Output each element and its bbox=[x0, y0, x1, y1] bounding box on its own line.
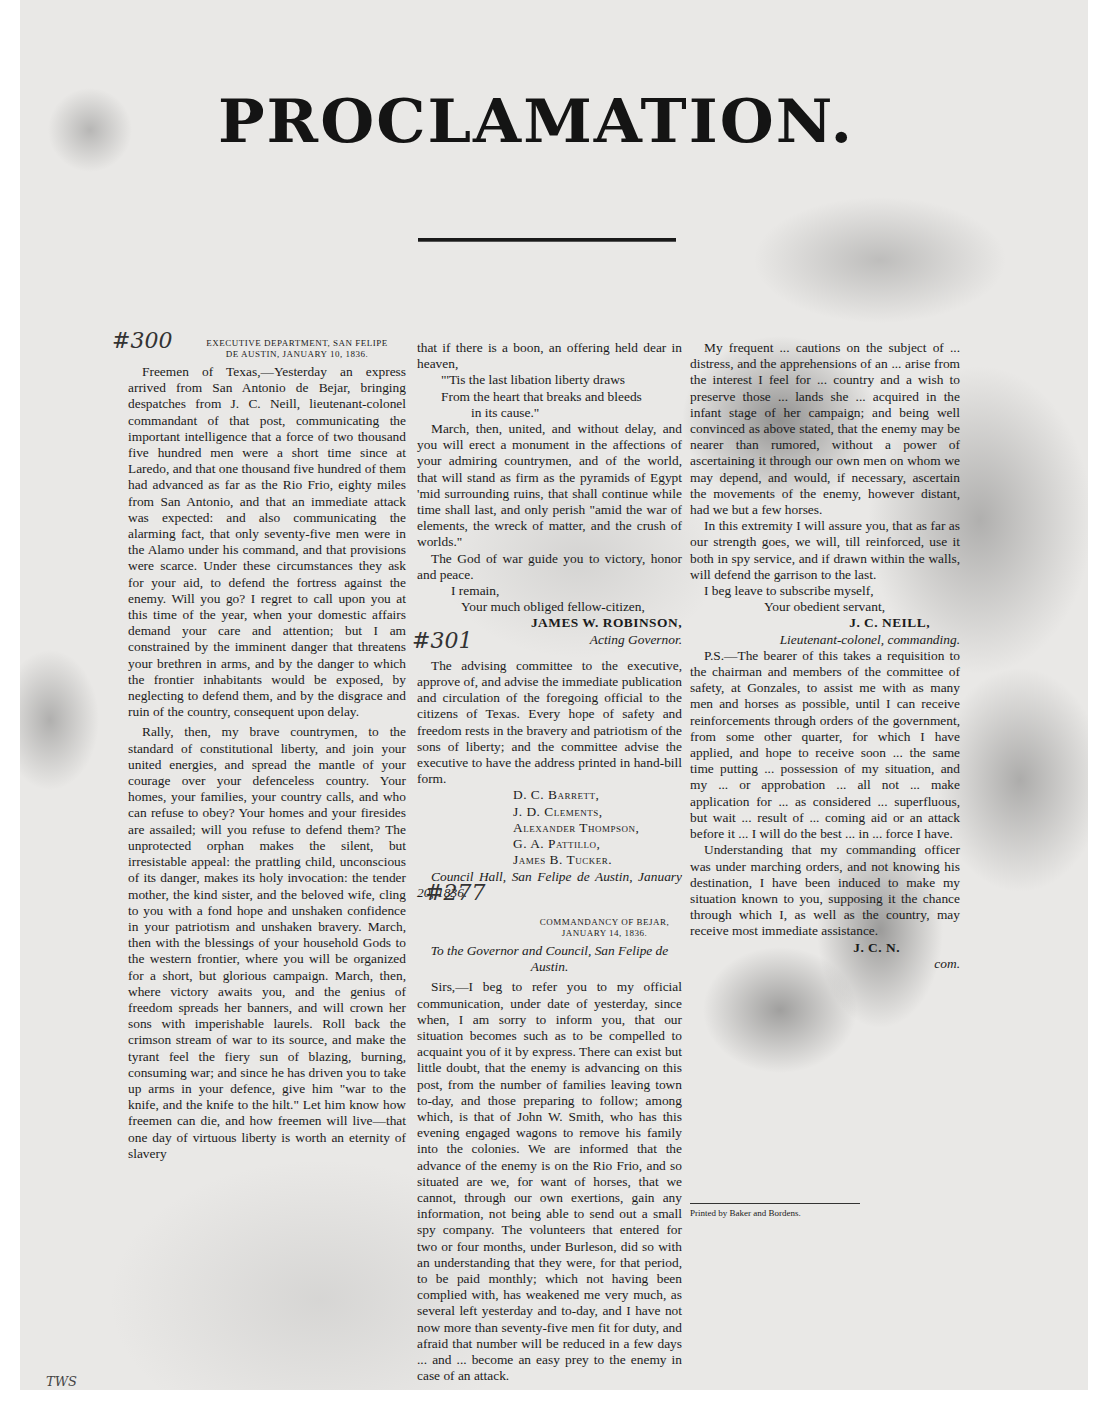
committee-name: D. C. Barrett, bbox=[417, 787, 682, 803]
poem-line-2: From the heart that breaks and bleeds bbox=[417, 389, 682, 405]
paragraph-continuation: that if there is a boon, an offering hel… bbox=[417, 340, 682, 372]
paragraph-god-of-war: The God of war guide you to victory, hon… bbox=[417, 551, 682, 583]
poem-line-3: in its cause." bbox=[417, 405, 682, 421]
committee-name: James B. Tucker. bbox=[417, 852, 682, 868]
dateline-bejar-line-1: Commandancy of Bejar, bbox=[527, 917, 682, 928]
paragraph-sirs: Sirs,—I beg to refer you to my official … bbox=[417, 979, 682, 1384]
poem-line-1: "'Tis the last libation liberty draws bbox=[417, 372, 682, 388]
signature-neill: J. C. NEILL, bbox=[690, 615, 960, 631]
letter-address: To the Governor and Council, San Felipe … bbox=[417, 943, 682, 975]
dateline-executive: Executive Department, San Felipe de Aust… bbox=[128, 338, 406, 360]
dateline-bejar: Commandancy of Bejar, January 14, 1836. bbox=[417, 917, 682, 939]
dateline-line-1: Executive Department, San Felipe bbox=[188, 338, 406, 349]
paragraph-rally: Rally, then, my brave countrymen, to the… bbox=[128, 724, 406, 1161]
ps-signature-title: com. bbox=[690, 956, 960, 972]
signature-title-lieutenant-colonel: Lieutenant-colonel, commanding. bbox=[690, 632, 960, 648]
dateline-bejar-line-2: January 14, 1836. bbox=[527, 928, 682, 939]
signature-title-acting-governor: Acting Governor. bbox=[417, 632, 682, 648]
paragraph-postscript: P.S.—The bearer of this takes a requisit… bbox=[690, 648, 960, 842]
document-title: PROCLAMATION. bbox=[218, 84, 898, 160]
closing-obedient-servant: Your obedient servant, bbox=[690, 599, 960, 615]
committee-name: G. A. Pattillo, bbox=[417, 836, 682, 852]
printer-line: Printed by Baker and Bordens. bbox=[690, 1203, 860, 1218]
paragraph-committee: The advising committee to the executive,… bbox=[417, 658, 682, 788]
paragraph-frequent: My frequent ... cautions on the subject … bbox=[690, 340, 960, 518]
committee-name: J. D. Clements, bbox=[417, 804, 682, 820]
signature-robinson: JAMES W. ROBINSON, bbox=[417, 615, 682, 631]
committee-name: Alexander Thompson, bbox=[417, 820, 682, 836]
paragraph-extremity: In this extremity I will assure you, tha… bbox=[690, 518, 960, 583]
paragraph-march: March, then, united, and without delay, … bbox=[417, 421, 682, 551]
handwritten-corner-mark: TWS bbox=[46, 1374, 77, 1389]
closing-remain: I remain, bbox=[417, 583, 682, 599]
council-hall-date: Council Hall, San Felipe de Austin, Janu… bbox=[417, 869, 682, 901]
column-3: My frequent ... cautions on the subject … bbox=[690, 340, 960, 972]
paragraph-freemen: Freemen of Texas,—Yesterday an express a… bbox=[128, 364, 406, 720]
column-2: that if there is a boon, an offering hel… bbox=[417, 340, 682, 1384]
closing-subscribe: I beg leave to subscribe myself, bbox=[690, 583, 960, 599]
closing-fellow-citizen: Your much obliged fellow-citizen, bbox=[417, 599, 682, 615]
paragraph-understanding: Understanding that my commanding officer… bbox=[690, 842, 960, 939]
ps-signature: J. C. N. bbox=[690, 940, 960, 956]
dateline-line-2: de Austin, January 10, 1836. bbox=[188, 349, 406, 360]
column-1: Executive Department, San Felipe de Aust… bbox=[128, 356, 406, 1162]
title-rule-divider bbox=[418, 238, 676, 242]
